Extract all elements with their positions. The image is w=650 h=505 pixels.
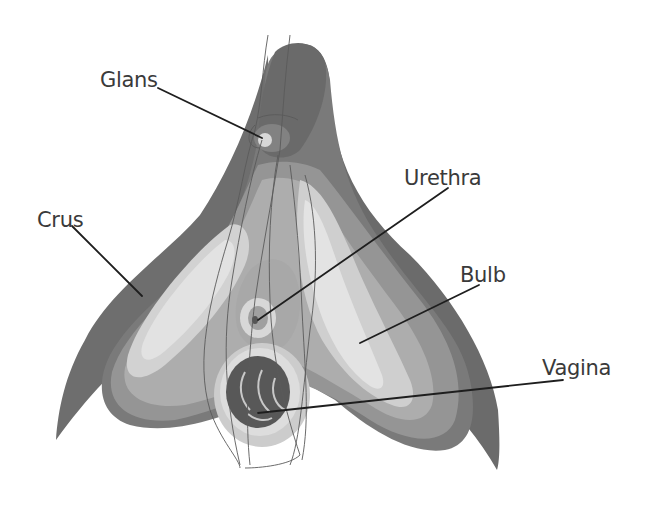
label-bulb: Bulb xyxy=(460,263,506,287)
label-crus: Crus xyxy=(37,208,83,232)
urethra-inner xyxy=(248,306,268,330)
anatomy-diagram: Glans Urethra Crus Bulb Vagina xyxy=(0,0,650,505)
label-vagina: Vagina xyxy=(542,356,611,380)
leader-line-crus xyxy=(72,226,142,296)
label-urethra: Urethra xyxy=(404,166,481,190)
label-glans: Glans xyxy=(100,68,158,92)
leader-line-glans xyxy=(158,88,262,138)
